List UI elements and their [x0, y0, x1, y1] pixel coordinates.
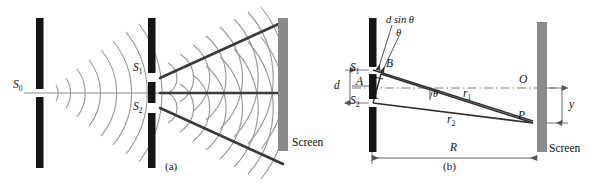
- panel-b-label-point-a: A: [356, 76, 363, 88]
- physics-figure-young-double-slit: S0 S1 S2 Screen (a) d sin θ θ B S1 A S2 …: [0, 0, 595, 193]
- panel-a-double-slit-barrier: [148, 18, 156, 168]
- panel-b-label-R: R: [450, 142, 457, 154]
- panel-b-label-s2: S2: [350, 95, 360, 109]
- panel-a-label-s1: S1: [133, 62, 143, 76]
- panel-b-double-slit-barrier: [369, 18, 377, 152]
- panel-b-label-s1: S1: [350, 62, 360, 76]
- panel-a-caption: (a): [165, 161, 177, 172]
- panel-b-y-dimension: [547, 88, 568, 123]
- panel-b-label-path-difference: d sin θ: [386, 15, 414, 26]
- panel-a-viewing-screen: [278, 18, 288, 151]
- panel-b-label-d: d: [334, 80, 340, 92]
- panel-b-label-r2: r2: [447, 114, 455, 128]
- panel-b-label-p: P: [518, 110, 525, 122]
- panel-b-label-theta-axis: θ: [433, 89, 438, 100]
- panel-b-caption: (b): [443, 161, 456, 172]
- figure-canvas: [0, 0, 595, 193]
- panel-b-screen-label: Screen: [549, 143, 580, 155]
- panel-b-label-y: y: [569, 99, 574, 111]
- panel-a-label-s2: S2: [133, 101, 143, 115]
- panel-b-label-theta-top: θ: [396, 28, 401, 39]
- panel-a-label-s0: S0: [13, 79, 23, 93]
- panel-b-ray-r1: [381, 74, 533, 123]
- panel-b-viewing-screen: [537, 22, 547, 152]
- panel-b-label-point-b: B: [386, 58, 393, 70]
- panel-b-label-o: O: [519, 74, 527, 86]
- panel-a-screen-label: Screen: [292, 137, 323, 149]
- panel-b-label-r1: r1: [463, 88, 471, 102]
- panel-a-graphics: [24, 7, 288, 179]
